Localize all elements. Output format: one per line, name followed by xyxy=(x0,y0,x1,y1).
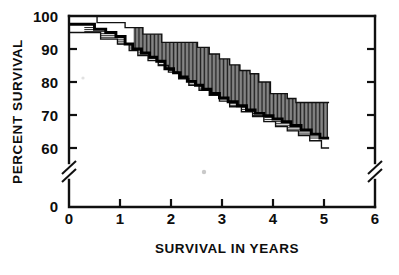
x-tick-label-5: 5 xyxy=(320,210,328,227)
x-tick-label-4: 4 xyxy=(269,210,278,227)
x-axis-title: SURVIVAL IN YEARS xyxy=(155,241,299,256)
y-tick-label-90: 90 xyxy=(41,41,58,58)
x-tick-label-3: 3 xyxy=(218,210,226,227)
scan-speck xyxy=(202,170,206,174)
x-tick-label-0: 0 xyxy=(65,210,73,227)
x-tick-label-6: 6 xyxy=(371,210,379,227)
y-tick-label-70: 70 xyxy=(41,107,58,124)
x-tick-label-2: 2 xyxy=(167,210,175,227)
y-tick-label-60: 60 xyxy=(41,140,58,157)
y-tick-label-80: 80 xyxy=(41,74,58,91)
x-tick-label-1: 1 xyxy=(116,210,124,227)
y-axis-title: PERCENT SURVIVAL xyxy=(10,39,25,184)
figure-background xyxy=(0,0,399,275)
y-tick-label-100: 100 xyxy=(33,8,58,25)
survival-curve-figure: 1009080706000123456SURVIVAL IN YEARSPERC… xyxy=(0,0,399,275)
scan-speck-2 xyxy=(81,76,84,79)
y-tick-label-0: 0 xyxy=(50,198,58,215)
